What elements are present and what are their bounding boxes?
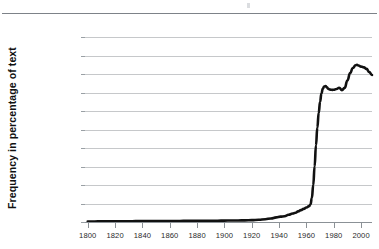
x-axis-tick-mark — [142, 223, 143, 228]
top-divider-rule — [2, 13, 377, 14]
x-axis-tick-mark — [334, 223, 335, 228]
x-axis-tick-mark — [361, 223, 362, 228]
y-axis-title: Frequency in percentage of text — [6, 28, 18, 228]
chart-figure: Frequency in percentage of text 0.000020… — [0, 0, 379, 249]
frequency-line-series — [88, 65, 372, 222]
x-axis-tick-mark — [115, 223, 116, 228]
x-axis-tick-mark — [197, 223, 198, 228]
x-axis-tick-label: 2000 — [341, 231, 379, 240]
x-axis-tick-mark — [306, 223, 307, 228]
x-axis-line — [85, 222, 372, 223]
x-axis-tick-mark — [279, 223, 280, 228]
x-axis-tick-mark — [224, 223, 225, 228]
plot-area — [85, 37, 372, 222]
x-axis-tick-mark — [252, 223, 253, 228]
scan-artifact-speck — [247, 3, 250, 8]
series-chart-svg — [85, 37, 372, 222]
x-axis-tick-mark — [170, 223, 171, 228]
x-axis-tick-mark — [88, 223, 89, 228]
